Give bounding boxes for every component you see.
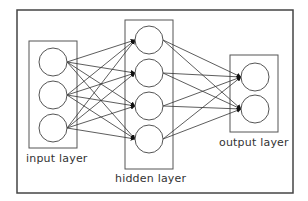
hidden-layer-label: hidden layer: [115, 172, 186, 185]
connection-edge: [163, 73, 241, 77]
hidden-node: [135, 92, 163, 120]
input-node: [39, 81, 67, 109]
connection-edge: [163, 77, 241, 106]
connection-edge: [163, 73, 241, 109]
output-layer-label: output layer: [219, 136, 289, 149]
hidden-node: [135, 59, 163, 87]
input-node: [39, 114, 67, 142]
connection-edge: [163, 109, 241, 139]
connection-edge: [163, 40, 241, 77]
input-node: [39, 48, 67, 76]
output-node: [241, 63, 269, 91]
hidden-node: [135, 26, 163, 54]
output-node: [241, 95, 269, 123]
connection-edge: [163, 40, 241, 109]
neural-network-diagram: [0, 0, 308, 201]
input-layer-label: input layer: [26, 152, 88, 165]
hidden-node: [135, 125, 163, 153]
connection-edge: [163, 77, 241, 139]
